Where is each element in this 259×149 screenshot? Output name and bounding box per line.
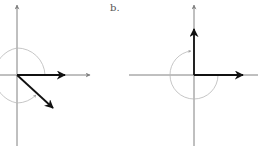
panel-a bbox=[0, 5, 90, 146]
panel-label-b: b. bbox=[110, 2, 120, 13]
diagram-canvas bbox=[0, 0, 259, 149]
vector-diagonal bbox=[17, 75, 53, 108]
panel-b bbox=[129, 5, 258, 146]
